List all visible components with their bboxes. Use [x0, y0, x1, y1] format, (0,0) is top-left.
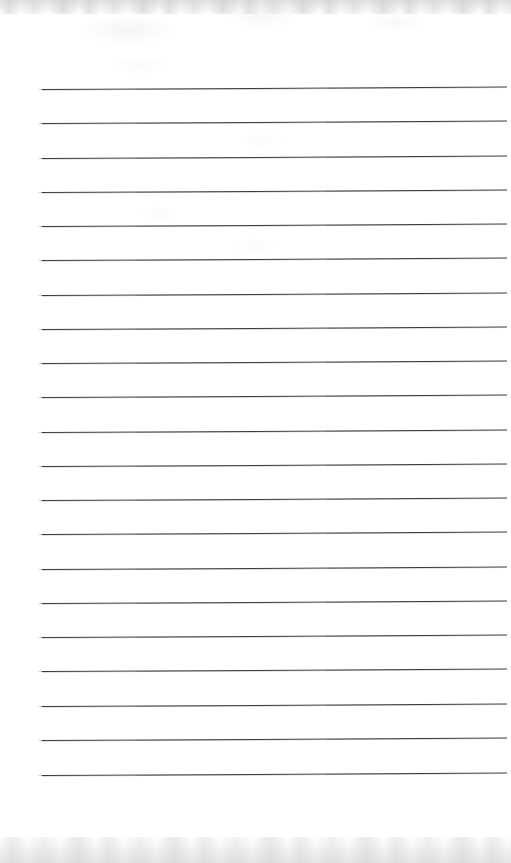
notebook-page: [0, 0, 511, 863]
ruled-line: [42, 258, 507, 261]
ruled-line: [42, 121, 507, 124]
ruled-line: [42, 464, 507, 467]
scan-noise-top-edge: [0, 0, 511, 14]
ruled-line: [42, 395, 507, 398]
ruled-line: [42, 669, 507, 672]
ruled-line: [42, 601, 507, 604]
ruled-line: [42, 773, 507, 776]
ruled-line: [42, 567, 507, 570]
ruled-line: [42, 190, 507, 193]
ruled-line: [42, 156, 507, 159]
ruled-line: [42, 327, 507, 330]
ruled-line: [42, 430, 507, 433]
scan-noise-bottom-edge: [0, 837, 511, 863]
ruled-line: [42, 738, 507, 741]
ruled-line: [42, 704, 507, 707]
ruled-line: [42, 532, 507, 535]
ruled-line: [42, 293, 507, 296]
ruled-line: [42, 224, 507, 227]
ruled-line: [42, 498, 507, 501]
ruled-line: [42, 87, 507, 90]
ruled-line: [42, 361, 507, 364]
ruled-line: [42, 635, 507, 638]
